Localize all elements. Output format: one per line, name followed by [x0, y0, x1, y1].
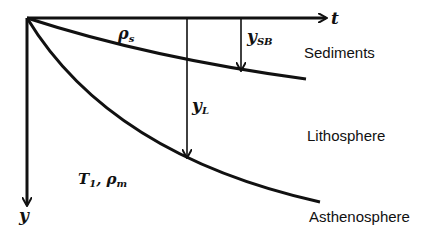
ysb-label: ySB	[247, 26, 273, 47]
yl-label: yL	[192, 95, 209, 116]
region-sediments: Sediments	[304, 44, 375, 61]
ysb-sub: SB	[257, 36, 273, 47]
lithosphere-base-curve	[27, 18, 320, 202]
y-axis-label: y	[19, 205, 29, 225]
region-asthenosphere: Asthenosphere	[309, 208, 410, 225]
yl-base: y	[192, 95, 202, 115]
region-lithosphere: Lithosphere	[307, 127, 385, 144]
yl-sub: L	[202, 105, 209, 116]
mantle-props-label: T1, ρm	[78, 170, 127, 189]
rho-m-sub: m	[117, 178, 128, 189]
rho-base: ρ	[118, 24, 129, 43]
rho-s-label: ρs	[118, 24, 134, 44]
ysb-base: y	[247, 26, 257, 46]
temp-base: T	[78, 170, 89, 188]
separator: ,	[96, 170, 106, 188]
t-axis-label: t	[331, 8, 339, 28]
rho-sub: s	[129, 33, 135, 44]
rho-m-base: ρ	[107, 170, 117, 188]
diagram-canvas	[0, 0, 431, 234]
